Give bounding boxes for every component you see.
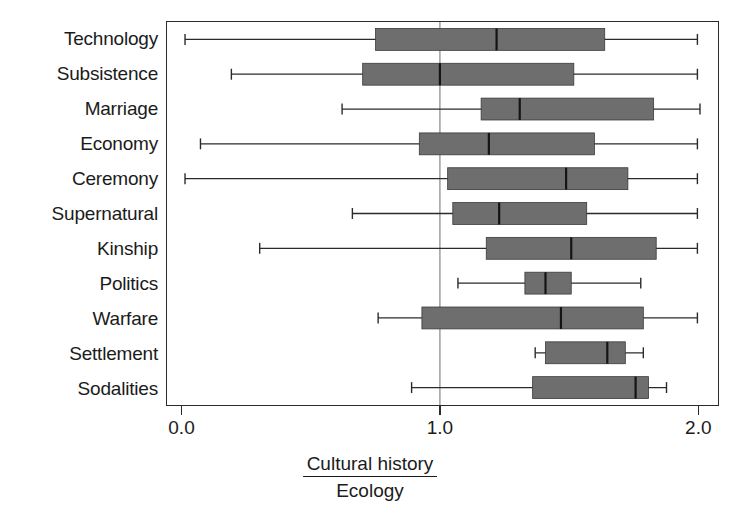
fraction-denominator: Ecology <box>303 477 438 502</box>
x-axis-title: Cultural history Ecology <box>0 452 740 502</box>
box-technology <box>185 28 697 50</box>
fraction-numerator: Cultural history <box>303 452 438 477</box>
x-tick-label-0: 0.0 <box>168 417 194 439</box>
x-tick-1 <box>439 406 440 415</box>
box-rect <box>533 377 649 399</box>
box-ceremony <box>185 168 697 190</box>
x-tick-0 <box>181 406 182 415</box>
category-label-warfare: Warfare <box>0 309 158 328</box>
category-label-kinship: Kinship <box>0 239 158 258</box>
box-rect <box>481 98 654 120</box>
box-rect <box>363 63 574 85</box>
box-supernatural <box>352 203 697 225</box>
category-label-marriage: Marriage <box>0 99 158 118</box>
category-axis-labels: TechnologySubsistenceMarriageEconomyCere… <box>0 21 158 406</box>
box-settlement <box>535 342 643 364</box>
box-rect <box>453 203 587 225</box>
plot-area <box>166 21 719 406</box>
box-kinship <box>260 237 698 259</box>
x-tick-label-2: 2.0 <box>685 417 711 439</box>
box-rect <box>448 168 628 190</box>
x-tick-2 <box>698 406 699 415</box>
fraction-label: Cultural history Ecology <box>303 452 438 502</box>
box-rect <box>419 133 594 155</box>
category-label-sodalities: Sodalities <box>0 379 158 398</box>
category-label-subsistence: Subsistence <box>0 64 158 83</box>
box-rect <box>525 272 571 294</box>
box-marriage <box>342 98 700 120</box>
box-economy <box>200 133 697 155</box>
box-politics <box>458 272 641 294</box>
category-label-ceremony: Ceremony <box>0 169 158 188</box>
category-label-politics: Politics <box>0 274 158 293</box>
category-label-settlement: Settlement <box>0 344 158 363</box>
boxplot-svg <box>167 22 718 405</box>
boxplot-figure: TechnologySubsistenceMarriageEconomyCere… <box>0 0 740 530</box>
box-warfare <box>378 307 697 329</box>
x-tick-label-1: 1.0 <box>427 417 453 439</box>
category-label-technology: Technology <box>0 29 158 48</box>
box-sodalities <box>412 377 667 399</box>
box-rect <box>376 28 605 50</box>
category-label-economy: Economy <box>0 134 158 153</box>
box-rect <box>422 307 643 329</box>
box-rect <box>545 342 625 364</box>
category-label-supernatural: Supernatural <box>0 204 158 223</box>
box-subsistence <box>231 63 697 85</box>
